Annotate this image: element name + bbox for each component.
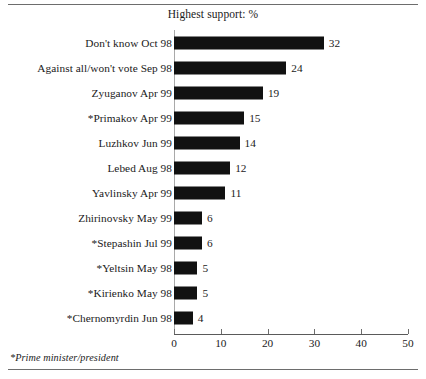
bar-value-label: 32: [329, 37, 340, 49]
bar: [174, 61, 286, 74]
bar-chart-plot: Don't know Oct 9832Against all/won't vot…: [0, 0, 426, 379]
bar: [174, 161, 230, 174]
bar: [174, 236, 202, 249]
chart-footnote: *Prime minister/president: [10, 352, 119, 363]
x-axis-tick-label: 20: [262, 337, 273, 349]
category-label: *Yeltsin May 98: [96, 262, 172, 274]
bar: [174, 261, 197, 274]
category-label: Luzhkov Jun 99: [99, 137, 173, 149]
x-axis-tick-label: 0: [171, 337, 177, 349]
bar-value-label: 19: [268, 87, 279, 99]
bar: [174, 311, 193, 324]
category-label: *Stepashin Jul 99: [91, 237, 172, 249]
bar: [174, 111, 244, 124]
x-axis-tick-label: 10: [215, 337, 226, 349]
bar-row: Lebed Aug 9812: [0, 155, 426, 180]
category-label: Zyuganov Apr 99: [92, 87, 172, 99]
bar: [174, 136, 240, 149]
bar-row: *Primakov Apr 9915: [0, 105, 426, 130]
bar-value-label: 15: [249, 112, 260, 124]
bar: [174, 186, 225, 199]
x-axis-tick: [268, 329, 269, 334]
category-label: *Primakov Apr 99: [88, 112, 172, 124]
category-label: Don't know Oct 98: [85, 37, 172, 49]
bar-row: *Chernomyrdin Jun 984: [0, 305, 426, 330]
bar-value-label: 4: [198, 312, 204, 324]
category-label: Yavlinsky Apr 99: [92, 187, 172, 199]
category-label: Zhirinovsky May 99: [78, 212, 172, 224]
x-axis-tick-label: 40: [356, 337, 367, 349]
x-axis-tick: [174, 329, 175, 334]
bar: [174, 286, 197, 299]
x-axis-tick: [361, 329, 362, 334]
bar-value-label: 6: [207, 212, 213, 224]
bar-row: *Stepashin Jul 996: [0, 230, 426, 255]
x-axis-tick-label: 50: [402, 337, 413, 349]
x-axis-tick: [221, 329, 222, 334]
bar: [174, 211, 202, 224]
x-axis-tick-label: 30: [309, 337, 320, 349]
bar-value-label: 5: [202, 262, 208, 274]
bar-row: *Kirienko May 985: [0, 280, 426, 305]
bar-row: Zyuganov Apr 9919: [0, 80, 426, 105]
bar-row: Don't know Oct 9832: [0, 30, 426, 55]
bar-value-label: 6: [207, 237, 213, 249]
bar-row: Luzhkov Jun 9914: [0, 130, 426, 155]
category-label: *Kirienko May 98: [88, 287, 172, 299]
category-label: *Chernomyrdin Jun 98: [67, 312, 172, 324]
category-label: Against all/won't vote Sep 98: [37, 62, 172, 74]
bar-row: Zhirinovsky May 996: [0, 205, 426, 230]
bar-row: Against all/won't vote Sep 9824: [0, 55, 426, 80]
bottom-divider: [8, 369, 418, 370]
bar: [174, 86, 263, 99]
bar-row: *Yeltsin May 985: [0, 255, 426, 280]
bar-value-label: 14: [245, 137, 256, 149]
category-label: Lebed Aug 98: [107, 162, 172, 174]
bar-value-label: 12: [235, 162, 246, 174]
x-axis-line: [174, 334, 408, 335]
bar-value-label: 5: [202, 287, 208, 299]
bar: [174, 36, 324, 49]
x-axis-tick: [408, 329, 409, 334]
bar-value-label: 11: [230, 187, 241, 199]
x-axis-tick: [314, 329, 315, 334]
bar-row: Yavlinsky Apr 9911: [0, 180, 426, 205]
bar-value-label: 24: [291, 62, 302, 74]
